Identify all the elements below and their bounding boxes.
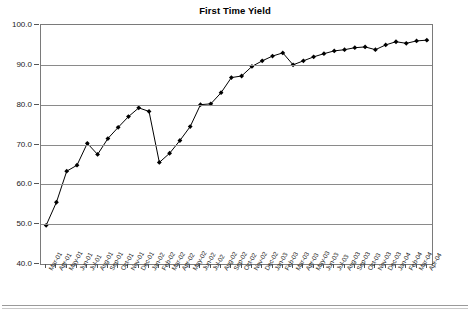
gridline	[41, 105, 432, 106]
data-point-marker	[311, 54, 316, 59]
data-point-marker	[424, 38, 429, 43]
y-axis-tick	[34, 144, 39, 145]
y-axis-tick	[34, 104, 39, 105]
data-point-marker	[322, 51, 327, 56]
y-axis-tick	[34, 24, 39, 25]
data-point-marker	[332, 48, 337, 53]
y-axis-tick	[34, 183, 39, 184]
data-point-marker	[147, 109, 152, 114]
y-axis-tick-label: 100.0	[12, 20, 32, 29]
data-point-marker	[54, 200, 59, 205]
y-axis-tick-label: 40.0	[16, 259, 32, 268]
y-axis-tick-label: 70.0	[16, 139, 32, 148]
footer-divider-secondary	[2, 308, 468, 309]
data-point-marker	[260, 58, 265, 63]
plot-area	[40, 24, 433, 265]
y-axis-tick-label: 80.0	[16, 99, 32, 108]
y-axis-tick-label: 60.0	[16, 179, 32, 188]
data-point-marker	[363, 45, 368, 50]
y-axis-tick	[34, 223, 39, 224]
data-point-marker	[414, 39, 419, 44]
page-title: First Time Yield	[0, 5, 470, 16]
y-axis-labels: 100.090.080.070.060.050.040.0	[0, 24, 36, 263]
y-axis-tick	[34, 263, 39, 264]
data-point-marker	[394, 39, 399, 44]
x-axis-labels: Mar-01Apr-01May-01Jun-01Jul-01Aug-01Sep-…	[0, 268, 470, 308]
footer-divider	[2, 305, 468, 306]
gridline	[41, 65, 432, 66]
gridline	[41, 224, 432, 225]
y-axis-tick-label: 90.0	[16, 59, 32, 68]
data-point-marker	[352, 45, 357, 50]
series-line	[46, 40, 427, 225]
y-axis-tick	[34, 64, 39, 65]
data-point-marker	[301, 58, 306, 63]
data-point-marker	[342, 47, 347, 52]
data-point-marker	[383, 43, 388, 48]
y-axis-tick-label: 50.0	[16, 219, 32, 228]
data-point-marker	[404, 41, 409, 46]
gridline	[41, 145, 432, 146]
data-point-marker	[75, 163, 80, 168]
chart-page: First Time Yield 100.090.080.070.060.050…	[0, 0, 470, 312]
data-point-marker	[64, 169, 69, 174]
data-point-marker	[373, 47, 378, 52]
data-point-marker	[270, 54, 275, 59]
gridline	[41, 184, 432, 185]
